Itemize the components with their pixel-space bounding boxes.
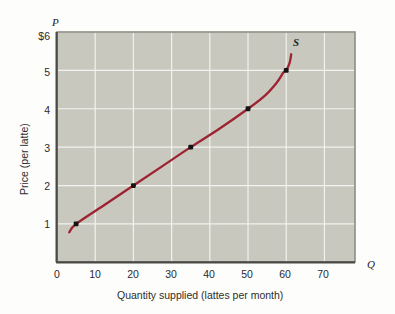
data-point-marker: [246, 106, 251, 111]
x-tick-label: 40: [194, 268, 224, 280]
x-tick-label: 60: [270, 268, 300, 280]
x-axis-letter: Q: [367, 258, 375, 270]
x-tick-label: 30: [156, 268, 186, 280]
chart-canvas: [0, 0, 395, 314]
supply-curve-figure: $6 5 4 3 2 1 0 10 20 30 40 50 60 70 P Q …: [0, 0, 395, 314]
x-tick-label: 70: [308, 268, 338, 280]
y-tick-label: $6: [20, 30, 50, 42]
data-point-marker: [74, 222, 79, 227]
y-axis-title: Price (per latte): [18, 123, 30, 195]
y-axis-letter: P: [52, 16, 59, 28]
x-tick-label: 20: [118, 268, 148, 280]
y-tick-label: 4: [20, 104, 50, 116]
x-axis-title: Quantity supplied (lattes per month): [117, 289, 283, 301]
y-tick-label: 5: [20, 66, 50, 78]
x-tick-label: 0: [42, 268, 72, 280]
data-point-marker: [131, 183, 136, 188]
data-point-marker: [188, 145, 193, 150]
x-tick-label: 10: [80, 268, 110, 280]
x-tick-label: 50: [232, 268, 262, 280]
data-point-marker: [284, 68, 289, 73]
supply-curve-label: S: [293, 36, 299, 48]
y-tick-label: 1: [20, 218, 50, 230]
